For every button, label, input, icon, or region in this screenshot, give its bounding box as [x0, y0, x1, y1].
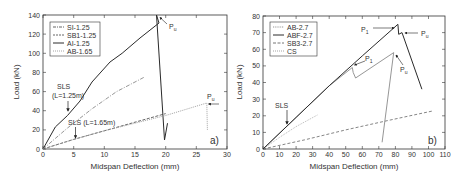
x-axis-title-a: Midspan Deflection (mm) [91, 162, 180, 171]
tick-label: 0 [36, 146, 40, 153]
tick-label: 140 [28, 12, 40, 19]
legend-a: SI-1.25 SB1-1.25 AI-1.25 AB-1.65 [50, 22, 100, 56]
tick-label: 70 [252, 29, 260, 36]
tick-label: 60 [32, 88, 40, 95]
x-axis-title-b: Midspan Deflection (mm) [310, 162, 399, 171]
y-axis-title-a: Load (kN) [12, 64, 21, 99]
tick-label: 110 [439, 151, 450, 158]
tick-label: 25 [192, 151, 200, 158]
tick-label: 100 [423, 151, 435, 158]
tick-label: 40 [32, 107, 40, 114]
sls-label-1: SLS [57, 83, 71, 90]
tick-label: 10 [100, 151, 108, 158]
tick-label: 30 [223, 151, 231, 158]
tick-label: 50 [252, 62, 260, 69]
figure: 0 5 10 15 20 25 30 0 20 [0, 0, 465, 179]
tick-label: 60 [252, 46, 260, 53]
y-axis-title-b: Load (kN) [235, 64, 244, 99]
sls-label-1-length: (L=1.25m) [52, 92, 84, 100]
y-tick-labels-a: 0 20 40 60 80 100 120 140 [28, 12, 40, 153]
legend-item: AI-1.25 [67, 40, 90, 47]
tick-label: 80 [252, 13, 260, 20]
chart-a: 0 5 10 15 20 25 30 0 20 [12, 12, 231, 172]
p1-label-top: P1 [361, 26, 369, 35]
x-tick-labels-a: 0 5 10 15 20 25 30 [41, 151, 231, 158]
arrow-icon [396, 55, 403, 65]
p1-label-mid: P1 [365, 55, 373, 64]
arrow-icon [160, 18, 167, 25]
legend-item: AB-1.65 [67, 48, 92, 55]
pu-label-mid: Pu [400, 66, 408, 75]
tick-label: 40 [325, 151, 333, 158]
tick-label: 5 [72, 151, 76, 158]
legend-item: AB-2.7 [287, 24, 309, 31]
panel-label-b: b) [428, 135, 437, 146]
tick-label: 80 [392, 151, 400, 158]
tick-label: 40 [252, 79, 260, 86]
chart-b: 0 10 20 30 40 50 60 70 80 90 100 110 [235, 13, 451, 172]
tick-label: 10 [252, 129, 260, 136]
tick-label: 0 [41, 151, 45, 158]
sls-label-2: SLS (L=1.65m) [68, 119, 115, 127]
legend-item: SB3-2.7 [287, 40, 312, 47]
legend-item: SI-1.25 [67, 24, 90, 31]
tick-label: 15 [131, 151, 139, 158]
tick-label: 20 [162, 151, 170, 158]
tick-label: 50 [342, 151, 350, 158]
legend-b: AB-2.7 ABF-2.7 SB3-2.7 CS [270, 22, 317, 56]
tick-label: 60 [358, 151, 366, 158]
tick-label: 30 [252, 96, 260, 103]
x-tick-labels-b: 0 10 20 30 40 50 60 70 80 90 100 110 [261, 151, 451, 158]
tick-label: 100 [28, 50, 40, 57]
tick-label: 120 [28, 31, 40, 38]
tick-label: 10 [276, 151, 284, 158]
series-cs [263, 115, 318, 149]
series-ab-2.7 [263, 53, 394, 149]
panel-label-a: a) [210, 135, 219, 146]
pu-label-top: Pu [421, 30, 429, 39]
tick-label: 0 [256, 146, 260, 153]
tick-label: 80 [32, 69, 40, 76]
pu-label-top: Pu [169, 23, 177, 32]
tick-label: 20 [292, 151, 300, 158]
tick-label: 90 [408, 151, 416, 158]
tick-label: 70 [375, 151, 383, 158]
legend-item: ABF-2.7 [287, 32, 313, 39]
tick-label: 20 [252, 112, 260, 119]
pu-label-right: Pu [207, 93, 215, 102]
tick-label: 30 [309, 151, 317, 158]
y-tick-labels-b: 0 10 20 30 40 50 60 70 80 [252, 13, 260, 153]
sls-label-b: SLS [275, 102, 289, 109]
legend-item: CS [287, 48, 297, 55]
tick-label: 0 [261, 151, 265, 158]
series-sb3-2.7 [263, 111, 433, 149]
legend-item: SB1-1.25 [67, 32, 96, 39]
tick-label: 20 [32, 126, 40, 133]
